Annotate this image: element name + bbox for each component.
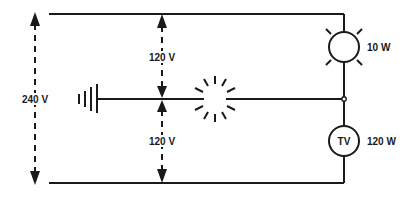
circuit-diagram: 10 W TV 120 W 240 V [0,0,416,197]
lamp-power-label: 10 W [367,42,391,53]
lower-voltage-label: 120 V [149,136,175,147]
total-voltage-label: 240 V [22,94,48,105]
tv-power-label: 120 W [367,136,396,147]
spark-icon [190,76,240,122]
upper-voltage-label: 120 V [149,52,175,63]
junction-node [342,97,346,101]
tv-label: TV [338,136,351,147]
tv-icon: TV [329,126,359,156]
lamp-icon [326,29,362,65]
ground-icon [79,84,97,113]
